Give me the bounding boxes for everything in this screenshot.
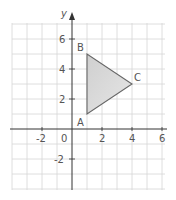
- x-tick-label: -2: [36, 133, 46, 144]
- vertex-label-c: C: [134, 72, 141, 83]
- origin-label: 0: [61, 133, 67, 144]
- x-tick-label: 6: [159, 133, 165, 144]
- y-tick-label: 6: [59, 34, 65, 45]
- y-axis-label: y: [60, 8, 68, 19]
- x-tick-label: 4: [129, 133, 135, 144]
- vertex-label-a: A: [77, 117, 84, 128]
- y-tick-label: 4: [59, 64, 65, 75]
- y-tick-label: -2: [54, 154, 64, 165]
- y-tick-label: 2: [59, 94, 65, 105]
- coordinate-plane: y 0 -2 2 4 6 6 4 2 -2 A B C: [0, 0, 176, 200]
- y-axis-arrow-icon: [69, 12, 75, 20]
- triangle-abc: [87, 54, 132, 114]
- x-tick-label: 2: [99, 133, 105, 144]
- vertex-label-b: B: [77, 42, 84, 53]
